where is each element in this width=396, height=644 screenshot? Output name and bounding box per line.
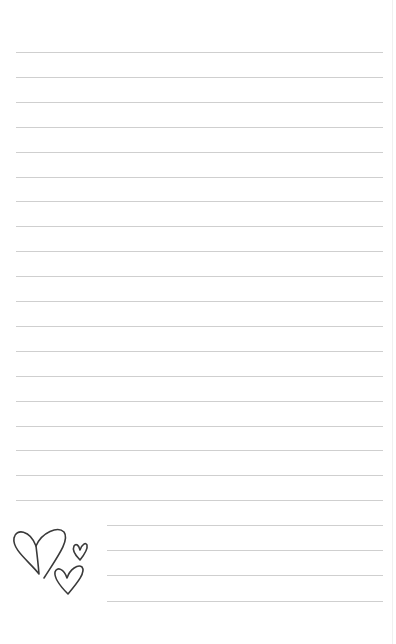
ruled-line: [16, 401, 383, 402]
ruled-line: [16, 201, 383, 202]
ruled-line: [16, 426, 383, 427]
ruled-line: [16, 77, 383, 78]
notepaper-page: [0, 0, 393, 644]
ruled-line: [16, 376, 383, 377]
ruled-line: [16, 475, 383, 476]
short-ruled-line: [107, 601, 383, 602]
ruled-line: [16, 251, 383, 252]
ruled-line: [16, 127, 383, 128]
ruled-line: [16, 351, 383, 352]
hearts-doodle-icon: [8, 522, 98, 602]
ruled-line: [16, 500, 383, 501]
ruled-line: [16, 52, 383, 53]
ruled-line: [16, 226, 383, 227]
short-ruled-line: [107, 525, 383, 526]
ruled-line: [16, 301, 383, 302]
short-ruled-line: [107, 575, 383, 576]
ruled-line: [16, 450, 383, 451]
ruled-line: [16, 152, 383, 153]
ruled-line: [16, 177, 383, 178]
ruled-line: [16, 102, 383, 103]
ruled-line: [16, 326, 383, 327]
ruled-line: [16, 276, 383, 277]
short-ruled-line: [107, 550, 383, 551]
